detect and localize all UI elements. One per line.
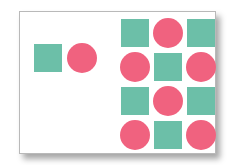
grid-square-r1c1 xyxy=(121,19,149,47)
grid-circle-r3c2 xyxy=(153,86,183,116)
given-circle-2 xyxy=(67,43,97,73)
grid-circle-r4c1 xyxy=(120,120,150,150)
grid-square-r3c1 xyxy=(121,87,149,115)
grid-square-r1c3 xyxy=(187,19,215,47)
grid-circle-r2c3 xyxy=(186,52,216,82)
grid-square-r4c2 xyxy=(154,121,182,149)
grid-square-r2c2 xyxy=(154,53,182,81)
given-square-1 xyxy=(34,44,62,72)
grid-circle-r2c1 xyxy=(120,52,150,82)
grid-square-r3c3 xyxy=(187,87,215,115)
grid-circle-r1c2 xyxy=(153,18,183,48)
grid-circle-r4c3 xyxy=(186,120,216,150)
diagram-stage xyxy=(0,0,245,165)
